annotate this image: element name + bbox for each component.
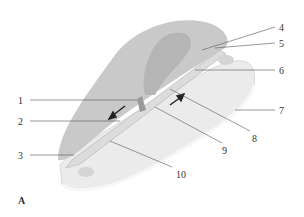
callout-5: 5 — [279, 39, 284, 49]
callout-8: 8 — [252, 134, 257, 144]
knob-shadow-top — [218, 55, 234, 65]
knob-shadow-bottom — [78, 167, 94, 177]
panel-label: A — [18, 195, 25, 206]
callout-1: 1 — [18, 96, 23, 106]
diagram-illustration — [0, 0, 304, 217]
callout-9: 9 — [222, 146, 227, 156]
callout-4: 4 — [279, 23, 284, 33]
callout-3: 3 — [18, 151, 23, 161]
callout-6: 6 — [279, 66, 284, 76]
callout-10: 10 — [176, 170, 186, 180]
callout-2: 2 — [18, 117, 23, 127]
callout-7: 7 — [279, 106, 284, 116]
